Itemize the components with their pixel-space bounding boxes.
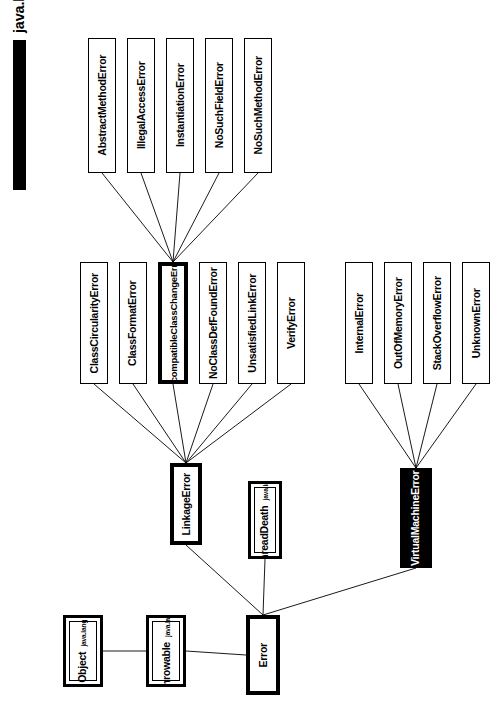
class-node-throwable[interactable]: Throwablejava.lang: [146, 615, 186, 687]
node-labels: NoSuchFieldError: [214, 63, 225, 149]
class-node-unknownerror[interactable]: UnknownError: [462, 262, 490, 384]
class-name: OutOfMemoryError: [393, 277, 404, 369]
diagram-canvas: java.lang-errors 1.188 AbstractMethodErr…: [0, 0, 502, 706]
class-node-object[interactable]: Objectjava.lang: [63, 615, 103, 687]
node-labels: Error: [258, 643, 269, 667]
class-node-unsatisfiedlinkerror[interactable]: UnsatisfiedLinkError: [238, 262, 266, 384]
class-name: LinkageError: [181, 473, 192, 535]
class-node-noclassdeffounderror[interactable]: NoClassDefFoundError: [199, 262, 227, 384]
class-name: VerifyError: [286, 297, 297, 349]
node-labels: Throwablejava.lang: [161, 615, 172, 687]
class-name: Object: [78, 651, 89, 682]
diagram-title-banner: java.lang-errors 1.188: [12, 0, 27, 190]
edge-unsatisfiedlinkerror-to-linkageerror: [186, 384, 252, 463]
edge-classcircularityerror-to-linkageerror: [94, 384, 186, 463]
class-name: UnsatisfiedLinkError: [247, 274, 258, 373]
class-name: InternalError: [354, 293, 365, 353]
edge-virtualmachineerror-to-error: [263, 568, 416, 615]
class-node-verifyerror[interactable]: VerifyError: [277, 262, 305, 384]
node-labels: ThreadDeathjava.lang: [260, 481, 271, 559]
node-labels: AbstractMethodError: [97, 55, 108, 156]
edge-abstractmethoderror-to-incompatibleclasschangeerror: [102, 173, 173, 262]
class-name: ClassCircularityError: [89, 273, 100, 373]
class-package: java.lang: [165, 615, 172, 637]
edge-noclassdeffounderror-to-linkageerror: [186, 384, 213, 463]
edge-throwable-to-error: [186, 651, 246, 655]
class-package: java.lang: [264, 481, 271, 500]
class-node-nosuchfielderror[interactable]: NoSuchFieldError: [205, 38, 233, 173]
class-node-instantiationerror[interactable]: InstantiationError: [166, 38, 194, 173]
class-node-incompatibleclasschangeerror[interactable]: IncompatibleClassChangeError: [158, 262, 188, 384]
class-name: StackOverflowError: [432, 276, 443, 370]
class-node-classcircularityerror[interactable]: ClassCircularityError: [80, 262, 108, 384]
class-name: Throwable: [161, 642, 172, 687]
class-node-outofmemoryerror[interactable]: OutOfMemoryError: [384, 262, 412, 384]
node-labels: UnknownError: [471, 288, 482, 358]
node-labels: NoClassDefFoundError: [208, 267, 219, 379]
diagram-title: java.lang-errors: [12, 0, 27, 33]
node-labels: InstantiationError: [175, 64, 186, 148]
class-name: AbstractMethodError: [97, 55, 108, 156]
edge-nosuchmethoderror-to-incompatibleclasschangeerror: [173, 173, 258, 262]
edge-incompatibleclasschangeerror-to-linkageerror: [173, 384, 186, 463]
class-name: IllegalAccessError: [136, 62, 147, 150]
node-labels: InternalError: [354, 293, 365, 353]
node-labels: StackOverflowError: [432, 276, 443, 370]
class-node-stackoverflowerror[interactable]: StackOverflowError: [423, 262, 451, 384]
class-node-error[interactable]: Error: [246, 615, 280, 695]
class-name: UnknownError: [471, 288, 482, 358]
class-node-abstractmethoderror[interactable]: AbstractMethodError: [88, 38, 116, 173]
class-name: VirtualMachineError: [411, 470, 422, 565]
class-name: IncompatibleClassChangeError: [168, 262, 178, 384]
class-name: NoSuchMethodError: [253, 56, 264, 154]
edge-nosuchfielderror-to-incompatibleclasschangeerror: [173, 173, 219, 262]
edge-illegalaccesserror-to-incompatibleclasschangeerror: [141, 173, 173, 262]
class-name: ClassFormatError: [128, 280, 139, 365]
class-node-threaddeath[interactable]: ThreadDeathjava.lang: [248, 481, 282, 559]
class-name: NoClassDefFoundError: [208, 267, 219, 379]
edge-stackoverflowerror-to-virtualmachineerror: [416, 384, 437, 468]
node-labels: OutOfMemoryError: [393, 277, 404, 369]
node-labels: IllegalAccessError: [136, 62, 147, 150]
node-labels: VirtualMachineError: [411, 470, 422, 565]
node-labels: Objectjava.lang: [78, 619, 89, 682]
node-labels: ClassFormatError: [128, 280, 139, 365]
class-name: Error: [258, 643, 269, 667]
class-name: InstantiationError: [175, 64, 186, 148]
edge-verifyerror-to-linkageerror: [186, 384, 291, 463]
node-labels: NoSuchMethodError: [253, 56, 264, 154]
class-name: ThreadDeath: [260, 505, 271, 559]
class-node-virtualmachineerror[interactable]: VirtualMachineError: [400, 468, 432, 568]
edge-unknownerror-to-virtualmachineerror: [416, 384, 476, 468]
class-package: java.lang: [82, 619, 89, 646]
class-node-nosuchmethoderror[interactable]: NoSuchMethodError: [244, 38, 272, 173]
class-node-classformaterror[interactable]: ClassFormatError: [119, 262, 147, 384]
class-name: NoSuchFieldError: [214, 63, 225, 149]
edge-threaddeath-to-error: [263, 559, 265, 615]
node-labels: VerifyError: [286, 297, 297, 349]
class-node-internalerror[interactable]: InternalError: [345, 262, 373, 384]
edge-classformaterror-to-linkageerror: [133, 384, 186, 463]
node-labels: IncompatibleClassChangeError: [168, 262, 178, 384]
class-node-illegalaccesserror[interactable]: IllegalAccessError: [127, 38, 155, 173]
class-node-linkageerror[interactable]: LinkageError: [170, 463, 202, 545]
node-labels: ClassCircularityError: [89, 273, 100, 373]
node-labels: UnsatisfiedLinkError: [247, 274, 258, 373]
title-black-bar: [13, 40, 26, 190]
edge-instantiationerror-to-incompatibleclasschangeerror: [173, 173, 180, 262]
node-labels: LinkageError: [181, 473, 192, 535]
